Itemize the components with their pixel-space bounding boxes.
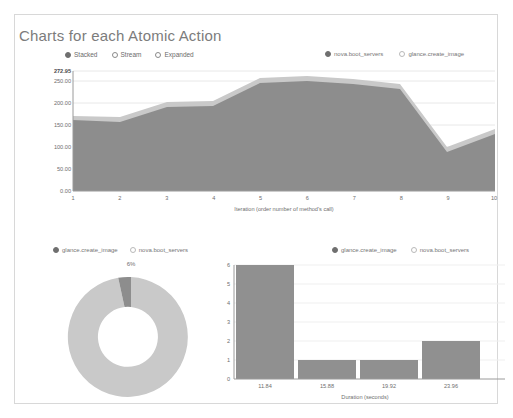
legend-label: glance.create_image — [341, 247, 397, 253]
legend-item-nova-boot-servers[interactable]: nova.boot_servers — [411, 247, 469, 253]
legend-marker-icon — [53, 247, 59, 253]
legend-label: glance.create_image — [408, 51, 464, 57]
legend-item-nova-boot-servers[interactable]: nova.boot_servers — [130, 247, 188, 253]
legend-marker-icon — [332, 247, 338, 253]
x-tick-7: 7 — [353, 195, 356, 201]
histogram-bar[interactable] — [422, 341, 480, 379]
radio-dot-icon — [155, 52, 161, 58]
radio-label: Stream — [121, 51, 142, 58]
histogram-legend: glance.create_image nova.boot_servers — [332, 247, 469, 253]
x-tick-4: 4 — [212, 195, 215, 201]
legend-marker-icon — [130, 247, 136, 253]
x-tick-2: 2 — [118, 195, 121, 201]
atomic-action-panel: Charts for each Atomic Action Stacked St… — [14, 14, 498, 404]
histogram-svg — [220, 257, 510, 397]
view-mode-radio-group: Stacked Stream Expanded — [65, 51, 194, 58]
legend-label: nova.boot_servers — [139, 247, 188, 253]
x-tick-10: 10 — [491, 195, 497, 201]
donut-legend: glance.create_image nova.boot_servers — [53, 247, 188, 253]
donut-svg — [35, 269, 235, 409]
histogram-bar[interactable] — [298, 360, 356, 379]
radio-label: Stacked — [74, 51, 98, 58]
duration-histogram-chart[interactable]: glance.create_image nova.boot_servers 6 … — [220, 247, 510, 405]
report-page: Charts for each Atomic Action Stacked St… — [0, 0, 513, 418]
legend-item-glance-create-image[interactable]: glance.create_image — [53, 247, 118, 253]
x-tick-9: 9 — [447, 195, 450, 201]
legend-label: nova.boot_servers — [334, 51, 383, 57]
legend-marker-icon — [411, 247, 417, 253]
radio-label: Expanded — [164, 51, 193, 58]
legend-item-nova-boot-servers[interactable]: nova.boot_servers — [325, 51, 383, 57]
donut-chart[interactable]: glance.create_image nova.boot_servers 6%… — [35, 247, 235, 405]
radio-stacked[interactable]: Stacked — [65, 51, 98, 58]
bar-x-tick-2: 15.88 — [320, 383, 334, 389]
legend-marker-icon — [325, 51, 331, 57]
histogram-bar[interactable] — [360, 360, 418, 379]
radio-stream[interactable]: Stream — [112, 51, 142, 58]
bar-x-tick-4: 23.96 — [444, 383, 458, 389]
radio-expanded[interactable]: Expanded — [155, 51, 193, 58]
legend-marker-icon — [399, 51, 405, 57]
legend-label: nova.boot_servers — [420, 247, 469, 253]
x-tick-5: 5 — [259, 195, 262, 201]
area-chart-legend: nova.boot_servers glance.create_image — [325, 51, 464, 57]
histogram-bar[interactable] — [236, 265, 294, 379]
donut-slice-label-small: 6% — [127, 261, 136, 267]
stacked-area-chart[interactable]: 272.95 250.00 200.00 150.00 100.00 50.00… — [29, 67, 495, 219]
histogram-x-axis-title: Duration (seconds) — [220, 394, 510, 400]
radio-dot-icon — [112, 52, 118, 58]
area-plot-svg — [29, 67, 495, 199]
area-x-axis-title: Iteration (order number of method's call… — [73, 206, 495, 212]
bar-x-tick-3: 19.92 — [382, 383, 396, 389]
x-tick-8: 8 — [400, 195, 403, 201]
area-series-nova-boot-servers — [73, 81, 495, 191]
bar-x-tick-1: 11.84 — [258, 383, 272, 389]
radio-dot-icon — [65, 52, 71, 58]
x-tick-6: 6 — [306, 195, 309, 201]
x-tick-3: 3 — [165, 195, 168, 201]
legend-item-glance-create-image[interactable]: glance.create_image — [399, 51, 464, 57]
x-tick-1: 1 — [71, 195, 74, 201]
legend-label: glance.create_image — [62, 247, 118, 253]
page-title: Charts for each Atomic Action — [19, 27, 222, 44]
legend-item-glance-create-image[interactable]: glance.create_image — [332, 247, 397, 253]
